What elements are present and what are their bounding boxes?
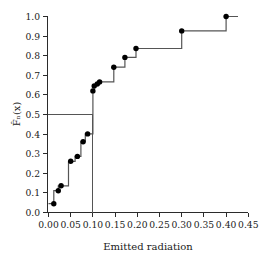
data-point (51, 201, 56, 206)
x-tick-label: 0.15 (105, 219, 126, 230)
x-tick-label: 0.45 (238, 219, 259, 230)
x-tick-label: 0.05 (60, 219, 81, 230)
data-point (179, 28, 184, 33)
y-tick-label: 1.0 (25, 11, 40, 22)
x-axis-tick-labels: 0.00 0.05 0.10 0.15 0.20 0.25 0.30 0.35 … (38, 219, 258, 230)
x-axis-title: Emitted radiation (103, 241, 193, 252)
y-tick-label: 0.4 (25, 129, 40, 140)
y-tick-label: 0.7 (25, 70, 40, 81)
data-point (223, 14, 228, 19)
data-point (68, 159, 73, 164)
data-point (75, 154, 80, 159)
x-tick-label: 0.25 (149, 219, 170, 230)
y-tick-label: 0.9 (25, 31, 40, 42)
y-axis-title: F̂ₙ(x) (11, 102, 22, 127)
y-tick-label: 0.1 (25, 187, 40, 198)
ecdf-plot: 1.0 0.9 0.8 0.7 0.6 0.5 0.4 0.3 0.2 0.1 … (0, 0, 264, 265)
x-tick-label: 0.10 (83, 219, 104, 230)
y-tick-label: 0.2 (25, 168, 40, 179)
x-tick-label: 0.00 (38, 219, 59, 230)
data-point (56, 188, 61, 193)
x-tick-label: 0.40 (216, 219, 237, 230)
y-tick-label: 0.8 (25, 50, 40, 61)
x-tick-label: 0.20 (127, 219, 148, 230)
data-point (97, 79, 102, 84)
data-point (80, 139, 85, 144)
data-point (111, 65, 116, 70)
data-point (58, 183, 63, 188)
x-tick-label: 0.35 (194, 219, 215, 230)
y-tick-label: 0.0 (25, 207, 40, 218)
data-point (133, 46, 138, 51)
data-point (85, 131, 90, 136)
y-tick-label: 0.6 (25, 89, 40, 100)
data-point (90, 88, 95, 93)
y-tick-label: 0.3 (25, 148, 40, 159)
x-tick-label: 0.30 (171, 219, 192, 230)
data-point (122, 55, 127, 60)
y-tick-label: 0.5 (25, 109, 40, 120)
ecdf-figure: 1.0 0.9 0.8 0.7 0.6 0.5 0.4 0.3 0.2 0.1 … (0, 0, 264, 265)
